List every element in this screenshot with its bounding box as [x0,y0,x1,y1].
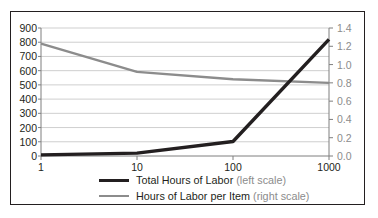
y-axis-left-tick-100: 100 [0,137,37,148]
legend-swatch-black-line-icon [99,179,129,182]
y-axis-left-tick-500: 500 [0,80,37,91]
legend-label-hours-of-labor-per-item: Hours of Labor per Item (right scale) [136,190,309,202]
y-axis-left-tick-800: 800 [0,37,37,48]
y-axis-left-tick-900: 900 [0,23,37,34]
chart-frame: 01002003004005006007008009000.00.20.40.6… [10,11,365,205]
y-axis-right-tick-1.4: 1.4 [337,23,377,34]
y-axis-left-tick-300: 300 [0,108,37,119]
y-axis-right-tick-0.4: 0.4 [337,114,377,125]
x-axis-tick-100: 100 [211,162,255,173]
y-axis-right-tick-1.0: 1.0 [337,60,377,71]
x-axis-tick-1: 1 [19,162,63,173]
y-axis-right-tick-1.2: 1.2 [337,41,377,52]
y-axis-left-tick-200: 200 [0,123,37,134]
y-axis-left-tick-700: 700 [0,51,37,62]
chart-figure: 01002003004005006007008009000.00.20.40.6… [0,0,378,218]
legend-item-hours-of-labor-per-item: Hours of Labor per Item (right scale) [11,188,366,204]
y-axis-left-tick-600: 600 [0,66,37,77]
chart-legend: Total Hours of Labor (left scale) Hours … [11,172,366,204]
legend-swatch-gray-line-icon [99,195,129,197]
y-axis-left-tick-0: 0 [0,151,37,162]
y-axis-left-tick-400: 400 [0,94,37,105]
plot-area: 01002003004005006007008009000.00.20.40.6… [11,12,364,204]
y-axis-right-tick-0.0: 0.0 [337,151,377,162]
x-axis-tick-10: 10 [115,162,159,173]
legend-item-total-hours-of-labor: Total Hours of Labor (left scale) [11,172,366,188]
y-axis-right-tick-0.6: 0.6 [337,96,377,107]
legend-label-total-hours-of-labor: Total Hours of Labor (left scale) [136,174,286,186]
y-axis-right-tick-0.2: 0.2 [337,133,377,144]
x-axis-tick-1000: 1000 [307,162,351,173]
y-axis-right-tick-0.8: 0.8 [337,78,377,89]
